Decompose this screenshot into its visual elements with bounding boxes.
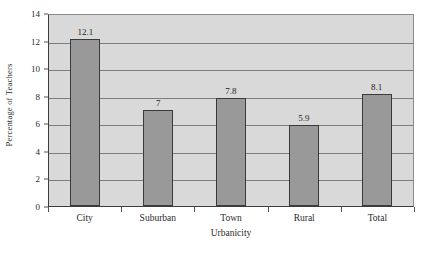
y-axis-tick-label: 4	[36, 147, 41, 157]
x-axis-tick-label: City	[48, 213, 121, 227]
y-axis-tick-label: 6	[36, 119, 41, 129]
x-axis-tick-mark	[268, 207, 269, 212]
bar-slot: 7.8	[195, 15, 268, 206]
y-axis-tick-label: 12	[31, 37, 40, 47]
x-axis-tick-mark	[194, 207, 195, 212]
bar-slot: 12.1	[49, 15, 122, 206]
x-axis-tick-label: Suburban	[121, 213, 194, 227]
x-axis-tick-label: Total	[341, 213, 414, 227]
y-axis-tick-label: 2	[36, 174, 41, 184]
y-axis-tick-label: 8	[36, 92, 41, 102]
bar-slot: 5.9	[267, 15, 340, 206]
bar-value-label: 12.1	[78, 27, 94, 37]
x-axis-tick-mark	[414, 207, 415, 212]
y-axis-title: Percentage of Teachers	[0, 0, 18, 210]
y-axis-tick-labels: 02468101214	[18, 14, 44, 207]
x-axis-tick-label: Rural	[268, 213, 341, 227]
bar-value-label: 7	[156, 98, 161, 108]
bar	[143, 110, 173, 207]
caption-remnant	[0, 256, 426, 263]
bar	[289, 125, 319, 206]
x-axis-tick-mark	[341, 207, 342, 212]
y-axis-tick-label: 0	[36, 202, 41, 212]
bar-value-label: 8.1	[371, 82, 382, 92]
bar-value-label: 5.9	[298, 113, 309, 123]
bar-value-label: 7.8	[225, 86, 236, 96]
bars-group: 12.177.85.98.1	[49, 15, 413, 206]
bar-chart-figure: Percentage of Teachers 02468101214 12.17…	[0, 0, 426, 263]
y-axis-tick-label: 14	[31, 9, 40, 19]
y-axis-tick-label: 10	[31, 64, 40, 74]
x-axis-tick-labels: CitySuburbanTownRuralTotal	[48, 213, 414, 227]
bar	[216, 98, 246, 206]
bar-slot: 7	[122, 15, 195, 206]
bar-slot: 8.1	[340, 15, 413, 206]
bar	[362, 94, 392, 206]
x-axis-tick-mark	[121, 207, 122, 212]
bar	[70, 39, 100, 206]
y-axis-title-text: Percentage of Teachers	[4, 64, 14, 147]
x-axis-title: Urbanicity	[48, 228, 414, 238]
x-axis-tick-mark	[48, 207, 49, 212]
plot-area: 12.177.85.98.1	[48, 14, 414, 207]
x-axis-tick-marks	[48, 207, 414, 212]
x-axis-tick-label: Town	[194, 213, 267, 227]
